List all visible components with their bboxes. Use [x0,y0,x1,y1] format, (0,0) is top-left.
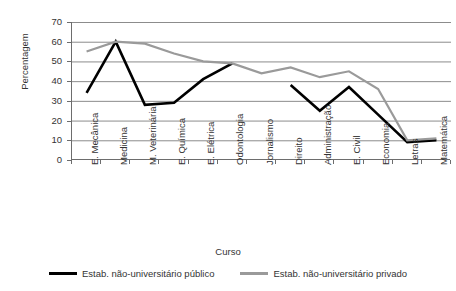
y-tick-mark [67,22,71,23]
x-tick-label: E. Elétrica [206,122,216,165]
x-tick-mark [304,160,305,164]
x-tick-mark [421,160,422,164]
y-tick-mark [67,81,71,82]
x-tick-label: Jornalismo [265,119,275,165]
x-tick-mark [217,160,218,164]
x-tick-label: E. Química [177,118,187,165]
legend-label-publico: Estab. não-universitário público [82,268,215,279]
y-axis-title: Percentagem [19,7,30,117]
legend-item-privado: Estab. não-universitário privado [240,268,407,279]
y-tick-label: 10 [40,135,62,144]
x-tick-label: Administração [323,105,333,165]
series-line-publico [87,42,233,105]
x-tick-label: M. Veterinária [148,106,158,165]
y-tick-mark [67,61,71,62]
x-tick-label: Direito [294,138,304,165]
x-tick-mark [246,160,247,164]
x-tick-label: Odontologia [235,114,245,165]
legend-swatch-black [49,272,77,275]
x-tick-label: Matemática [439,116,449,165]
chart-legend: Estab. não-universitário público Estab. … [0,268,456,279]
x-tick-label: Medicina [119,127,129,165]
y-tick-mark [67,42,71,43]
legend-label-privado: Estab. não-universitário privado [273,268,407,279]
y-tick-label: 60 [40,37,62,46]
y-tick-mark [67,101,71,102]
x-tick-label: E. Mecânica [90,113,100,165]
legend-swatch-gray [240,272,268,275]
x-tick-mark [275,160,276,164]
y-tick-label: 50 [40,56,62,65]
y-tick-label: 0 [40,155,62,164]
x-tick-mark [450,160,451,164]
legend-item-publico: Estab. não-universitário público [49,268,215,279]
x-tick-mark [100,160,101,164]
x-tick-mark [392,160,393,164]
y-tick-label: 20 [40,116,62,125]
x-tick-mark [363,160,364,164]
y-tick-label: 30 [40,96,62,105]
y-tick-label: 70 [40,17,62,26]
series-line-publico [291,85,437,142]
x-tick-label: E. Civil [352,135,362,165]
x-tick-mark [333,160,334,164]
y-tick-mark [67,140,71,141]
y-tick-label: 40 [40,76,62,85]
chart-container: Percentagem 010203040506070 E. MecânicaM… [0,0,456,291]
x-tick-mark [71,160,72,164]
x-tick-label: Letras [410,139,420,165]
y-tick-mark [67,121,71,122]
x-tick-mark [188,160,189,164]
x-tick-mark [129,160,130,164]
x-axis-title: Curso [0,246,456,257]
x-tick-label: Economia [381,123,391,165]
x-tick-mark [158,160,159,164]
